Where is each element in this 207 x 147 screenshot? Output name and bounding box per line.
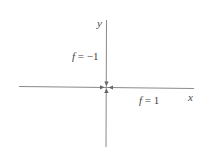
- annotation-f-1: f = 1: [139, 94, 159, 106]
- annotation-f-minus-1: f = −1: [72, 50, 99, 62]
- x-axis-label: x: [187, 91, 193, 103]
- annotation-value: −1: [87, 50, 99, 62]
- y-axis-label: y: [96, 17, 102, 29]
- axes-diagram: y x f = −1 f = 1: [0, 0, 207, 147]
- annotation-eq: =: [142, 94, 154, 106]
- arrow-from-right-icon: [109, 85, 114, 89]
- annotation-value: 1: [154, 94, 160, 106]
- annotation-eq: =: [75, 50, 87, 62]
- arrow-from-top-icon: [104, 82, 108, 87]
- arrow-from-bottom-icon: [104, 89, 108, 94]
- arrow-from-left-icon: [100, 85, 105, 89]
